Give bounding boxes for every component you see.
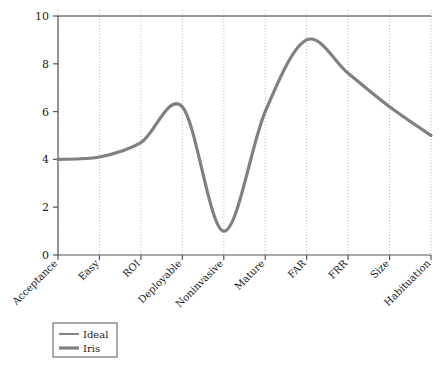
x-ticks-group: [58, 255, 431, 260]
series-line-iris: [58, 39, 431, 231]
x-tick-label-mature: Mature: [232, 258, 266, 292]
y-tick-label-4: 4: [42, 153, 49, 166]
x-tick-label-frr: FRR: [326, 257, 350, 281]
gridlines-group: [58, 10, 431, 255]
line-chart-canvas: 0246810 AcceptanceEasyROIDeployableNonin…: [0, 0, 445, 374]
y-ticks-group: 0246810: [35, 10, 58, 262]
x-tick-labels-group: AcceptanceEasyROIDeployableNoninvasiveMa…: [9, 257, 432, 309]
series-group: [58, 16, 431, 231]
x-tick-label-size: Size: [368, 258, 391, 281]
legend-label-iris: Iris: [83, 343, 100, 354]
y-tick-label-6: 6: [42, 106, 49, 119]
axes-group: [58, 16, 431, 255]
legend-label-ideal: Ideal: [83, 329, 108, 340]
y-tick-label-2: 2: [42, 201, 49, 214]
x-tick-label-roi: ROI: [121, 258, 143, 280]
x-tick-label-easy: Easy: [76, 257, 101, 282]
chart-figure: 0246810 AcceptanceEasyROIDeployableNonin…: [0, 0, 445, 374]
x-tick-label-far: FAR: [286, 257, 309, 280]
chart-legend: IdealIris: [53, 323, 117, 357]
y-tick-label-10: 10: [35, 10, 49, 23]
x-tick-label-acceptance: Acceptance: [9, 258, 59, 308]
y-tick-label-8: 8: [42, 58, 49, 71]
